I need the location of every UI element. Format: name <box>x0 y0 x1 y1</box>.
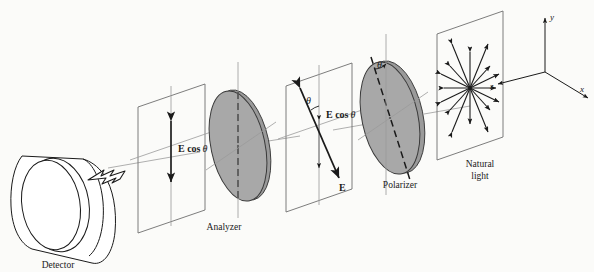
optics-diagram-svg: E cosθ Analyzer θ E cosθ E <box>0 0 594 272</box>
z-axis-label: z <box>489 81 494 91</box>
detector-label: Detector <box>42 260 76 270</box>
z-axis <box>498 72 545 84</box>
theta-label-polarizer: θ <box>377 59 382 70</box>
polarizer-disc: θ Polarizer <box>351 34 434 195</box>
figure-canvas: E cosθ Analyzer θ E cosθ E <box>0 0 594 272</box>
analyzer-disc: Analyzer <box>200 62 280 232</box>
y-axis-label: y <box>549 12 554 22</box>
coordinate-axes <box>498 18 588 98</box>
e-vector-label: E <box>339 182 346 193</box>
analyzer-label: Analyzer <box>207 222 243 232</box>
e-cos-theta-label-left: E cosθ <box>178 143 208 154</box>
theta-label-mid-plane: θ <box>306 95 311 106</box>
polarizer-label: Polarizer <box>383 180 418 190</box>
natural-light-plane: Natural light <box>437 11 503 181</box>
e-cos-theta-label-mid: E cosθ <box>326 109 356 120</box>
natural-light-label-line2: light <box>471 171 489 181</box>
transmitted-plane: E cosθ <box>130 84 214 233</box>
x-axis-label: x <box>579 84 584 94</box>
detector-body <box>11 154 116 264</box>
natural-light-label-line1: Natural <box>466 159 495 169</box>
